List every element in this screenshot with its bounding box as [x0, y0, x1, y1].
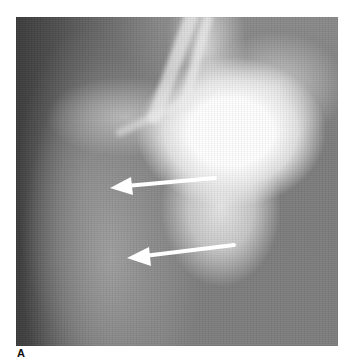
figure-label: A: [17, 347, 25, 359]
radiograph-image: [16, 17, 338, 346]
arrow-overlay: [16, 17, 338, 346]
arrow-lower-icon: [127, 245, 234, 266]
arrow-upper-icon: [110, 177, 215, 195]
